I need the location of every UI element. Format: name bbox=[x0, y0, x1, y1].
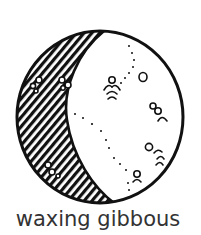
phase-caption: waxing gibbous bbox=[0, 206, 196, 232]
moon-phase-figure: waxing gibbous bbox=[0, 0, 201, 235]
waxing-gibbous-moon-icon bbox=[0, 0, 201, 210]
